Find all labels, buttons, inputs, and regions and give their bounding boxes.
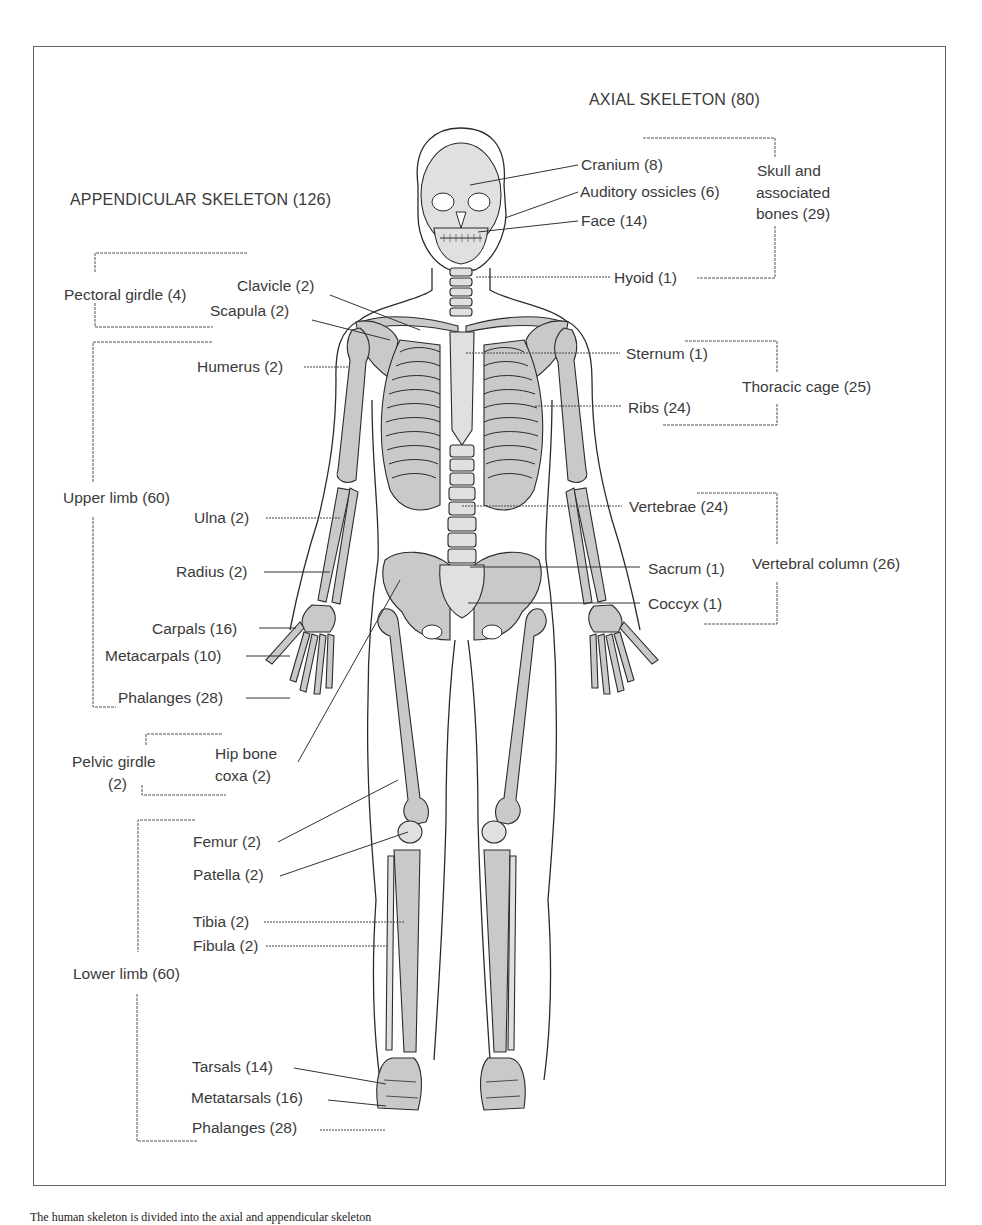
label-hip-bone-line1: Hip bone	[215, 745, 277, 763]
pelvis	[383, 552, 542, 640]
label-tarsals: Tarsals (14)	[192, 1058, 273, 1076]
group-thoracic-cage: Thoracic cage (25)	[742, 378, 871, 396]
left-arm	[266, 328, 369, 694]
label-hyoid: Hyoid (1)	[614, 269, 677, 287]
label-sternum: Sternum (1)	[626, 345, 708, 363]
label-clavicle: Clavicle (2)	[237, 277, 315, 295]
label-cranium: Cranium (8)	[581, 156, 663, 174]
group-skull-line1: Skull and	[757, 162, 821, 180]
group-pelvic-girdle-line2: (2)	[108, 775, 127, 793]
group-skull-line2: associated	[756, 184, 830, 202]
label-hip-bone-line2: coxa (2)	[215, 767, 271, 785]
label-tibia: Tibia (2)	[193, 913, 249, 931]
figure-caption: The human skeleton is divided into the a…	[30, 1210, 371, 1225]
label-foot-phalanges: Phalanges (28)	[192, 1119, 297, 1137]
appendicular-skeleton-heading: APPENDICULAR SKELETON (126)	[70, 191, 331, 209]
label-face: Face (14)	[581, 212, 647, 230]
group-pectoral-girdle: Pectoral girdle (4)	[64, 286, 186, 304]
label-scapula: Scapula (2)	[210, 302, 289, 320]
label-ulna: Ulna (2)	[194, 509, 249, 527]
label-humerus: Humerus (2)	[197, 358, 283, 376]
group-vertebral-column: Vertebral column (26)	[752, 555, 900, 573]
left-leg	[377, 609, 429, 1110]
label-auditory-ossicles: Auditory ossicles (6)	[580, 183, 720, 201]
spine	[448, 445, 476, 563]
label-carpals: Carpals (16)	[152, 620, 237, 638]
label-metatarsals: Metatarsals (16)	[191, 1089, 303, 1107]
label-radius: Radius (2)	[176, 563, 248, 581]
label-coccyx: Coccyx (1)	[648, 595, 722, 613]
label-vertebrae: Vertebrae (24)	[629, 498, 728, 516]
label-patella: Patella (2)	[193, 866, 264, 884]
label-fibula: Fibula (2)	[193, 937, 258, 955]
axial-skeleton-heading: AXIAL SKELETON (80)	[589, 91, 760, 109]
group-lower-limb: Lower limb (60)	[73, 965, 180, 983]
skull	[421, 143, 501, 264]
group-brackets	[93, 138, 777, 1141]
group-skull-line3: bones (29)	[756, 205, 830, 223]
label-sacrum: Sacrum (1)	[648, 560, 725, 578]
group-pelvic-girdle-line1: Pelvic girdle	[72, 753, 156, 771]
label-metacarpals: Metacarpals (10)	[105, 647, 221, 665]
group-upper-limb: Upper limb (60)	[63, 489, 170, 507]
label-ribs: Ribs (24)	[628, 399, 691, 417]
label-femur: Femur (2)	[193, 833, 261, 851]
label-hand-phalanges: Phalanges (28)	[118, 689, 223, 707]
right-leg	[481, 609, 547, 1110]
cervical-spine	[450, 268, 472, 316]
